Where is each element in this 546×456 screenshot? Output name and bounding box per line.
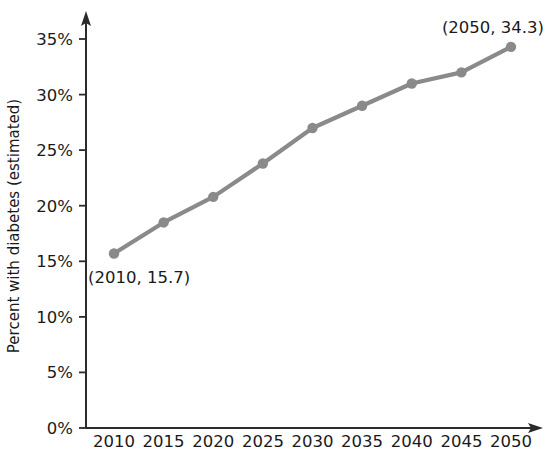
- y-tick-5: 5%: [47, 363, 86, 382]
- y-tick-20: 20%: [36, 197, 86, 216]
- data-point-2050: [506, 42, 516, 52]
- x-axis-ticks: 2010 2015 2020 2025 2030 2035 2040 2045 …: [93, 432, 532, 451]
- data-series-layer: [109, 42, 516, 259]
- y-tick-10: 10%: [36, 308, 86, 327]
- x-tick-label-2025: 2025: [242, 432, 284, 451]
- data-point-2045: [456, 67, 466, 77]
- chart-canvas: Percent with diabetes (estimated) 0% 5% …: [0, 0, 546, 456]
- y-axis-ticks: 0% 5% 10% 15% 20% 25%: [36, 30, 86, 438]
- y-tick-label-10: 10%: [36, 308, 73, 327]
- data-point-2010: [109, 248, 119, 258]
- data-point-2030: [307, 123, 317, 133]
- x-tick-label-2040: 2040: [391, 432, 433, 451]
- data-point-2035: [357, 101, 367, 111]
- y-tick-label-20: 20%: [36, 197, 73, 216]
- y-axis: [81, 11, 91, 428]
- x-tick-label-2045: 2045: [440, 432, 482, 451]
- y-tick-label-0: 0%: [47, 419, 73, 438]
- y-tick-label-5: 5%: [47, 363, 73, 382]
- x-tick-label-2020: 2020: [192, 432, 234, 451]
- y-tick-label-35: 35%: [36, 30, 73, 49]
- y-tick-label-25: 25%: [36, 141, 73, 160]
- data-point-2020: [208, 192, 218, 202]
- y-tick-25: 25%: [36, 141, 86, 160]
- y-tick-30: 30%: [36, 86, 86, 105]
- data-point-2015: [158, 217, 168, 227]
- y-tick-label-30: 30%: [36, 86, 73, 105]
- data-point-2040: [407, 78, 417, 88]
- x-tick-label-2035: 2035: [341, 432, 383, 451]
- x-tick-label-2010: 2010: [93, 432, 135, 451]
- y-tick-35: 35%: [36, 30, 86, 49]
- data-point-2025: [258, 158, 268, 168]
- x-tick-label-2015: 2015: [143, 432, 185, 451]
- diabetes-projection-chart: Percent with diabetes (estimated) 0% 5% …: [0, 0, 546, 456]
- y-tick-15: 15%: [36, 252, 86, 271]
- series-line-diabetes: [114, 47, 511, 254]
- x-tick-label-2050: 2050: [490, 432, 532, 451]
- y-tick-0: 0%: [47, 419, 86, 438]
- y-axis-title: Percent with diabetes (estimated): [5, 99, 23, 353]
- y-tick-label-15: 15%: [36, 252, 73, 271]
- annotation-start-point: (2010, 15.7): [88, 268, 190, 287]
- annotation-end-point: (2050, 34.3): [442, 18, 544, 37]
- x-tick-label-2030: 2030: [292, 432, 334, 451]
